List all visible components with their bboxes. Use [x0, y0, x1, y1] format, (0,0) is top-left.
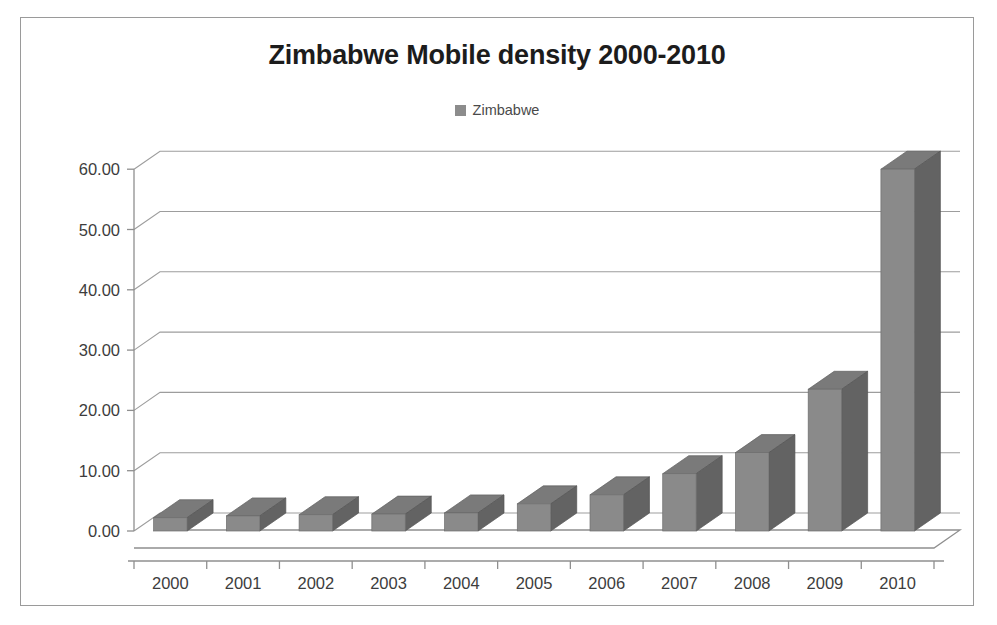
y-axis-tick-label: 60.00 — [79, 160, 120, 178]
x-axis-tick-labels: 2000200120022003200420052006200720082009… — [152, 574, 916, 592]
y-axis-tick-labels: 0.0010.0020.0030.0040.0050.0060.00 — [79, 160, 120, 540]
x-axis-tick-label: 2006 — [588, 574, 625, 592]
x-axis-tick-label: 2005 — [516, 574, 553, 592]
bar-column — [226, 498, 285, 531]
bar-column — [445, 495, 504, 531]
x-axis-tick-label: 2002 — [297, 574, 334, 592]
bar-column — [517, 486, 576, 531]
x-axis-tick-label: 2004 — [443, 574, 480, 592]
bar-column — [372, 496, 431, 531]
y-axis-tick-label: 50.00 — [79, 221, 120, 239]
bar-column — [154, 500, 213, 531]
plot-area: 0.0010.0020.0030.0040.0050.0060.00 20002… — [21, 18, 975, 607]
bars — [154, 151, 941, 531]
gridline — [134, 272, 960, 290]
gridline — [134, 332, 960, 350]
floor-plane — [134, 530, 960, 548]
y-axis-tick-label: 40.00 — [79, 281, 120, 299]
chart-frame: Zimbabwe Mobile density 2000-2010 Zimbab… — [20, 17, 974, 606]
bar-column — [299, 497, 358, 531]
bar-column — [735, 435, 794, 531]
y-axis-tick-label: 30.00 — [79, 341, 120, 359]
gridline — [134, 212, 960, 230]
x-axis-tick-label: 2003 — [370, 574, 407, 592]
gridline — [134, 151, 960, 169]
x-axis-tick-label: 2009 — [807, 574, 844, 592]
bar-column — [590, 477, 649, 531]
x-axis-tick-label: 2000 — [152, 574, 189, 592]
x-axis-tick-label: 2001 — [225, 574, 262, 592]
x-axis-tick-label: 2007 — [661, 574, 698, 592]
chart-image: Zimbabwe Mobile density 2000-2010 Zimbab… — [0, 0, 997, 625]
x-axis-tick-label: 2008 — [734, 574, 771, 592]
bar-column — [663, 456, 722, 531]
bar-column — [808, 371, 867, 531]
y-axis-tick-label: 0.00 — [88, 522, 120, 540]
bar-column — [881, 151, 940, 531]
y-axis-tick-label: 10.00 — [79, 462, 120, 480]
y-axis-tick-label: 20.00 — [79, 401, 120, 419]
x-axis-tick-label: 2010 — [879, 574, 916, 592]
